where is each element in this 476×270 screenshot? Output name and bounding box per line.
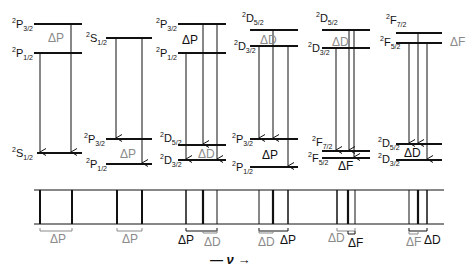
svg-text:ΔD: ΔD <box>260 33 277 47</box>
svg-text:ΔF: ΔF <box>406 235 421 249</box>
svg-text:ΔD: ΔD <box>198 147 215 161</box>
svg-text:ΔD: ΔD <box>204 235 221 249</box>
svg-text:2P3/2: 2P3/2 <box>84 132 105 147</box>
svg-text:2D5/2: 2D5/2 <box>378 136 400 151</box>
svg-text:ΔP: ΔP <box>178 233 194 247</box>
svg-text:2P1/2: 2P1/2 <box>156 46 177 61</box>
svg-text:2P1/2: 2P1/2 <box>86 157 107 172</box>
svg-text:ΔD: ΔD <box>424 233 441 247</box>
svg-text:2D3/2: 2D3/2 <box>234 39 256 54</box>
svg-text:2D5/2: 2D5/2 <box>316 11 338 26</box>
svg-text:2S1/2: 2S1/2 <box>86 31 107 46</box>
svg-text:2P3/2: 2P3/2 <box>232 132 253 147</box>
svg-text:ΔP: ΔP <box>182 33 198 47</box>
svg-text:ΔD: ΔD <box>328 231 345 245</box>
svg-text:ΔF: ΔF <box>338 159 353 173</box>
spectrum-band: ΔP ΔP ΔP ΔD ΔD ΔP ΔD ΔF ΔF ΔD <box>34 190 444 250</box>
svg-text:ΔP: ΔP <box>48 31 64 45</box>
svg-text:2D3/2: 2D3/2 <box>308 41 330 56</box>
svg-text:ΔD: ΔD <box>332 35 349 49</box>
svg-text:2F7/2: 2F7/2 <box>386 13 406 28</box>
svg-text:2P1/2: 2P1/2 <box>232 160 253 175</box>
svg-text:ΔD: ΔD <box>258 235 275 249</box>
svg-text:2P3/2: 2P3/2 <box>156 17 177 32</box>
svg-text:ΔD: ΔD <box>404 146 421 160</box>
frequency-axis-label: — ν → <box>209 252 250 267</box>
svg-text:2S1/2: 2S1/2 <box>12 146 33 161</box>
svg-text:ΔP: ΔP <box>262 148 278 162</box>
svg-text:ΔP: ΔP <box>50 232 66 246</box>
svg-text:2F7/2: 2F7/2 <box>312 135 332 150</box>
svg-text:2D3/2: 2D3/2 <box>160 153 182 168</box>
svg-text:2F5/2: 2F5/2 <box>308 151 328 166</box>
svg-text:ΔF: ΔF <box>450 35 465 49</box>
splitting-labels: ΔP ΔP ΔP ΔD ΔD ΔP ΔD ΔF ΔF ΔD <box>48 31 465 173</box>
svg-text:ΔP: ΔP <box>280 233 296 247</box>
svg-text:2P1/2: 2P1/2 <box>12 46 33 61</box>
svg-text:2D5/2: 2D5/2 <box>242 11 264 26</box>
svg-text:2D5/2: 2D5/2 <box>160 131 182 146</box>
svg-text:ΔP: ΔP <box>122 232 138 246</box>
svg-text:2D3/2: 2D3/2 <box>378 152 400 167</box>
svg-text:2F5/2: 2F5/2 <box>380 35 400 50</box>
svg-text:2P3/2: 2P3/2 <box>12 17 33 32</box>
energy-level-diagram: 2P3/2 2P1/2 2S1/2 2S1/2 2P3/2 2P1/2 2P3/… <box>0 0 476 270</box>
svg-text:ΔF: ΔF <box>348 236 363 250</box>
svg-text:ΔP: ΔP <box>120 147 136 161</box>
